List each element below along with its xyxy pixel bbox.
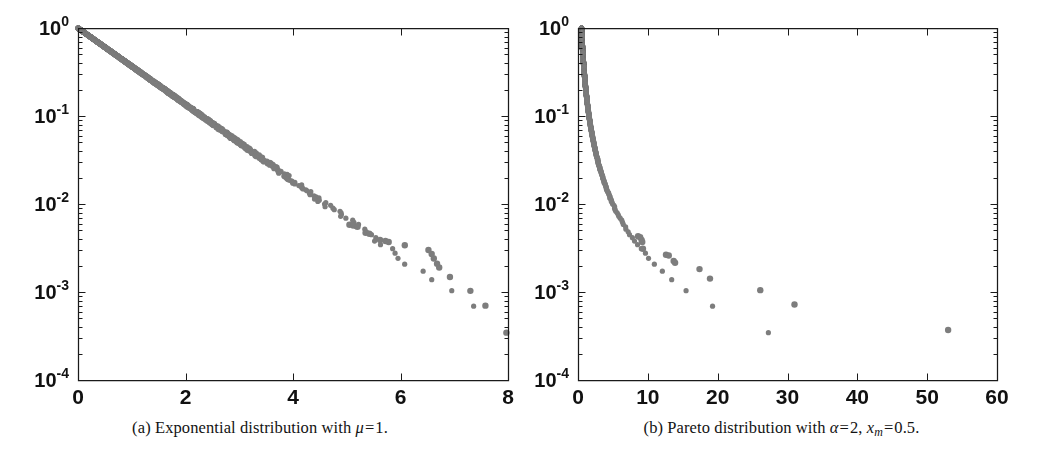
caption-a-symbol-mu: μ xyxy=(356,418,364,437)
pareto-ccdf-plot xyxy=(520,0,1043,412)
caption-b-symbol-alpha: α xyxy=(830,418,839,437)
caption-b-value-2: 0.5. xyxy=(894,418,919,437)
caption-b-value: 2, xyxy=(850,418,863,437)
caption-b-equals: = xyxy=(839,418,850,437)
caption-a-equals: = xyxy=(364,418,375,437)
caption-b-text: Pareto distribution with xyxy=(667,418,825,437)
caption-a-prefix: (a) xyxy=(132,418,151,437)
caption-b-prefix: (b) xyxy=(644,418,664,437)
caption-panel-b: (b) Pareto distribution with α=2, xm=0.5… xyxy=(520,418,1043,438)
caption-b-equals-2: = xyxy=(883,418,894,437)
caption-b-symbol-xm-subscript: m xyxy=(874,425,883,439)
caption-panel-a: (a) Exponential distribution with μ=1. xyxy=(0,418,520,438)
panel-exponential: (a) Exponential distribution with μ=1. xyxy=(0,0,520,463)
caption-a-value: 1. xyxy=(375,418,388,437)
figure-container: (a) Exponential distribution with μ=1. (… xyxy=(0,0,1043,463)
panel-pareto: (b) Pareto distribution with α=2, xm=0.5… xyxy=(520,0,1043,463)
caption-a-text: Exponential distribution with xyxy=(155,418,351,437)
exponential-ccdf-plot xyxy=(0,0,520,412)
